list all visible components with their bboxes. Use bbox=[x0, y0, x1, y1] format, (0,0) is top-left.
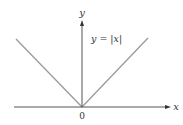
x-axis-arrow-icon bbox=[165, 105, 171, 109]
graph-left-branch bbox=[16, 39, 82, 107]
graph-right-branch bbox=[82, 38, 148, 107]
x-axis-label: x bbox=[173, 101, 179, 112]
y-axis-label: y bbox=[78, 7, 85, 18]
function-label: y = |x| bbox=[90, 33, 122, 45]
abs-value-diagram: y x 0 y = |x| bbox=[0, 0, 183, 125]
y-axis-arrow-icon bbox=[80, 20, 84, 26]
origin-label: 0 bbox=[79, 111, 85, 121]
